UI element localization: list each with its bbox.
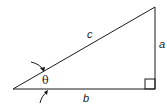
right-triangle-diagram: c a b θ [0, 0, 167, 107]
label-theta: θ [42, 74, 49, 87]
hypotenuse-c-line [13, 7, 155, 89]
label-a: a [159, 38, 165, 50]
triangle [13, 7, 155, 103]
label-c: c [87, 28, 93, 40]
label-b: b [83, 92, 89, 104]
right-angle-marker [145, 79, 155, 89]
